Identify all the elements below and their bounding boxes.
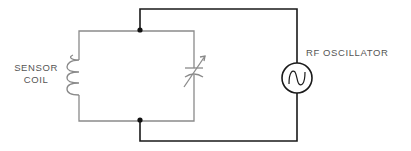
rf-oscillator-label: RF OSCILLATOR (306, 47, 388, 59)
tank-circuit (67, 31, 205, 121)
wire-bottom (140, 93, 297, 141)
junction-dot-top (137, 27, 142, 32)
wire-top (140, 9, 297, 63)
tank-top-wire (79, 31, 194, 68)
junction-dot-bottom (137, 117, 142, 122)
rf-oscillator (282, 63, 312, 93)
sensor-coil-icon (67, 55, 79, 95)
sensor-coil-label-line2: COIL (10, 74, 62, 86)
sensor-coil-label: SENSOR COIL (10, 62, 62, 86)
sensor-coil-label-line1: SENSOR (10, 62, 62, 74)
tank-bottom-wire (79, 75, 194, 121)
